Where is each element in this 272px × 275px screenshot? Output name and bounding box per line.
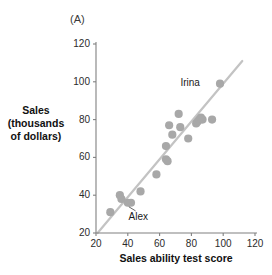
data-point[interactable] (184, 134, 192, 142)
x-axis-tick-label: 100 (211, 238, 235, 249)
data-point[interactable] (136, 187, 144, 195)
y-axis-tick-label: 60 (64, 151, 90, 162)
point-annotation-label: Alex (129, 211, 148, 222)
plot-area (0, 0, 272, 275)
data-point[interactable] (163, 157, 171, 165)
data-point[interactable] (208, 116, 216, 124)
y-axis-tick-label: 20 (64, 227, 90, 238)
y-axis-tick-label: 80 (64, 114, 90, 125)
y-axis-tick-label: 40 (64, 189, 90, 200)
point-annotation-label: Irina (180, 77, 199, 88)
y-axis-tick-label: 100 (64, 76, 90, 87)
data-point[interactable] (176, 123, 184, 131)
scatter-plot-figure: (A) Sales (thousands of dollars) Sales a… (0, 0, 272, 275)
data-point[interactable] (175, 110, 183, 118)
data-point[interactable] (162, 142, 170, 150)
data-point[interactable] (168, 131, 176, 139)
data-point[interactable] (165, 121, 173, 129)
x-axis-tick-label: 40 (116, 238, 140, 249)
data-point[interactable] (106, 208, 114, 216)
data-point[interactable] (127, 199, 135, 207)
data-point[interactable] (216, 80, 224, 88)
y-axis-tick-label: 120 (64, 38, 90, 49)
x-axis-tick-label: 80 (179, 238, 203, 249)
data-point[interactable] (152, 170, 160, 178)
x-axis-tick-label: 20 (84, 238, 108, 249)
data-point[interactable] (198, 116, 206, 124)
x-axis-tick-label: 60 (148, 238, 172, 249)
x-axis-tick-label: 120 (243, 238, 267, 249)
